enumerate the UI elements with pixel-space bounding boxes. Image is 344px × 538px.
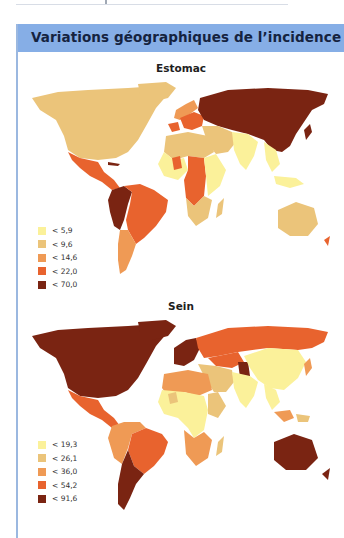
legend-swatch: [38, 481, 46, 489]
legend-label: < 70,0: [52, 280, 77, 289]
legend-item: < 54,2: [38, 479, 77, 493]
legend-item: < 22,0: [38, 265, 77, 279]
legend-label: < 91,6: [52, 494, 77, 503]
legend-swatch: [38, 441, 46, 449]
legend-swatch: [38, 281, 46, 289]
legend-swatch: [38, 240, 46, 248]
legend-label: < 26,1: [52, 454, 77, 463]
legend-swatch: [38, 468, 46, 476]
legend-item: < 91,6: [38, 492, 77, 506]
map-title-sein: Sein: [18, 300, 344, 312]
legend-label: < 9,6: [52, 240, 73, 249]
legend-label: < 22,0: [52, 267, 77, 276]
legend-swatch: [38, 254, 46, 262]
legend-label: < 19,3: [52, 440, 77, 449]
map-title-estomac: Estomac: [18, 62, 344, 74]
legend-label: < 5,9: [52, 226, 73, 235]
legend-label: < 14,6: [52, 253, 77, 262]
panel-header: Variations géographiques de l’incidence: [18, 24, 344, 52]
legend-item: < 9,6: [38, 238, 77, 252]
legend-sein: < 19,3 < 26,1 < 36,0 < 54,2 < 91,6: [38, 438, 77, 506]
legend-label: < 54,2: [52, 481, 77, 490]
legend-swatch: [38, 227, 46, 235]
legend-item: < 19,3: [38, 438, 77, 452]
legend-estomac: < 5,9 < 9,6 < 14,6 < 22,0 < 70,0: [38, 224, 77, 292]
top-divider-mark: [105, 0, 107, 4]
legend-item: < 14,6: [38, 251, 77, 265]
incidence-panel: Variations géographiques de l’incidence …: [16, 24, 344, 538]
legend-item: < 36,0: [38, 465, 77, 479]
top-divider: [16, 4, 288, 5]
legend-swatch: [38, 454, 46, 462]
legend-item: < 5,9: [38, 224, 77, 238]
legend-item: < 26,1: [38, 452, 77, 466]
legend-swatch: [38, 495, 46, 503]
legend-item: < 70,0: [38, 278, 77, 292]
legend-label: < 36,0: [52, 467, 77, 476]
legend-swatch: [38, 267, 46, 275]
panel-title: Variations géographiques de l’incidence: [31, 29, 341, 45]
